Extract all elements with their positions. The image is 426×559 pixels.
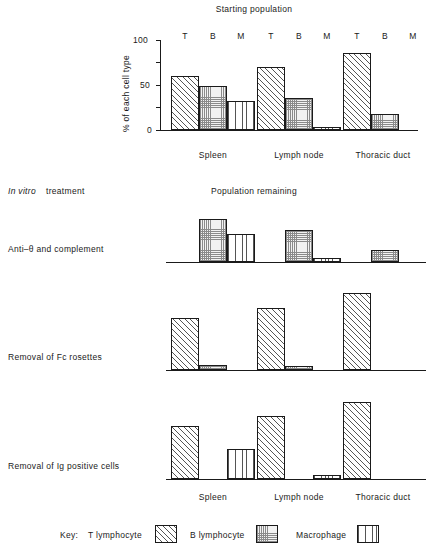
bar-start-spleen-B bbox=[199, 86, 227, 130]
bar-r2-lymph-T bbox=[257, 308, 285, 370]
bar-r3-spleen-M bbox=[227, 449, 255, 479]
y-tick-label-100: 100 bbox=[133, 35, 148, 45]
header-spleen-B: B bbox=[210, 31, 216, 41]
bar-r1-thoracic-B bbox=[371, 250, 399, 262]
in-vitro-label: In vitro bbox=[8, 186, 36, 196]
bar-start-spleen-T bbox=[171, 76, 199, 130]
row2-baseline-lymph bbox=[252, 370, 340, 371]
bar-r2-spleen-T bbox=[171, 318, 199, 370]
legend-swatch-t-lymphocyte bbox=[155, 525, 177, 543]
row3-baseline-spleen bbox=[166, 479, 254, 480]
row2-baseline-spleen bbox=[166, 370, 254, 371]
header-thoracic-T: T bbox=[354, 31, 360, 41]
bar-start-thoracic-T bbox=[343, 53, 371, 130]
y-axis-label: % of each cell type bbox=[121, 55, 131, 132]
bottom-group-label-thoracic: Thoracic duct bbox=[356, 492, 411, 502]
bar-r2-lymph-B bbox=[285, 366, 313, 371]
header-lymph-T: T bbox=[268, 31, 274, 41]
starting-population-chart: Starting population % of each cell type … bbox=[0, 0, 426, 180]
bar-start-lymph-M bbox=[313, 127, 341, 131]
y-tick-label-50: 50 bbox=[140, 80, 150, 90]
bar-r3-lymph-T bbox=[257, 416, 285, 479]
header-thoracic-B: B bbox=[382, 31, 388, 41]
treatment-label: treatment bbox=[46, 186, 85, 196]
bottom-group-label-lymph: Lymph node bbox=[274, 492, 323, 502]
bar-start-spleen-M bbox=[227, 101, 255, 130]
population-remaining-title: Population remaining bbox=[211, 186, 297, 196]
row1-baseline-lymph bbox=[252, 262, 340, 263]
bar-start-lymph-T bbox=[257, 67, 285, 130]
y-tick-75 bbox=[156, 62, 160, 63]
legend: Key: T lymphocyte B lymphocyte Macrophag… bbox=[0, 525, 426, 555]
starting-population-title: Starting population bbox=[216, 4, 293, 14]
bar-r1-lymph-M bbox=[313, 258, 341, 262]
bar-r2-spleen-B bbox=[199, 365, 227, 370]
row-label-anti-theta: Anti–θ and complement bbox=[8, 244, 104, 254]
bar-r3-thoracic-T bbox=[343, 402, 371, 479]
group-label-thoracic: Thoracic duct bbox=[356, 150, 411, 160]
figure-canvas: Starting population % of each cell type … bbox=[0, 0, 426, 559]
bar-r2-thoracic-T bbox=[343, 293, 371, 370]
header-lymph-B: B bbox=[296, 31, 302, 41]
bottom-group-label-spleen: Spleen bbox=[199, 492, 227, 502]
row-label-fc-rosettes: Removal of Fc rosettes bbox=[8, 352, 102, 362]
header-lymph-M: M bbox=[323, 31, 330, 41]
legend-label-b-lymphocyte: B lymphocyte bbox=[190, 530, 245, 540]
header-spleen-T: T bbox=[182, 31, 188, 41]
y-tick-100 bbox=[156, 40, 160, 41]
group-label-spleen: Spleen bbox=[199, 150, 227, 160]
header-thoracic-M: M bbox=[409, 31, 416, 41]
legend-label-t-lymphocyte: T lymphocyte bbox=[88, 530, 142, 540]
bar-r3-spleen-T bbox=[171, 426, 199, 479]
y-tick-25 bbox=[156, 107, 160, 108]
y-axis-line bbox=[160, 40, 161, 131]
legend-swatch-macrophage bbox=[357, 525, 379, 543]
legend-key-label: Key: bbox=[60, 530, 78, 540]
row3-baseline-lymph bbox=[252, 479, 340, 480]
bar-r1-spleen-B bbox=[199, 219, 227, 262]
x-axis-baseline bbox=[160, 130, 418, 131]
bar-r1-spleen-M bbox=[227, 234, 255, 262]
header-spleen-M: M bbox=[237, 31, 244, 41]
bar-r1-lymph-B bbox=[285, 230, 313, 262]
bar-start-lymph-B bbox=[285, 98, 313, 130]
row1-baseline-spleen bbox=[166, 262, 254, 263]
row2-baseline-thoracic bbox=[338, 370, 426, 371]
legend-swatch-b-lymphocyte bbox=[256, 525, 278, 543]
y-tick-50 bbox=[156, 85, 160, 86]
row3-baseline-thoracic bbox=[338, 479, 426, 480]
bar-start-thoracic-B bbox=[371, 114, 399, 130]
row-label-ig-positive: Removal of Ig positive cells bbox=[8, 461, 119, 471]
y-tick-label-0: 0 bbox=[147, 125, 152, 135]
bar-r3-lymph-M bbox=[313, 475, 341, 480]
legend-label-macrophage: Macrophage bbox=[296, 530, 346, 540]
row1-baseline-thoracic bbox=[338, 262, 426, 263]
group-label-lymph: Lymph node bbox=[274, 150, 323, 160]
